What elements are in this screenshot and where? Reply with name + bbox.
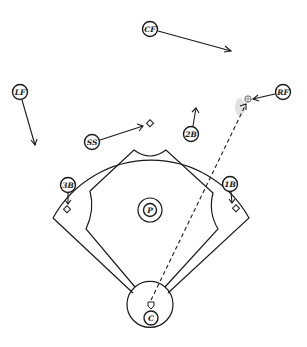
player-cf: CF bbox=[143, 22, 158, 37]
player-c: C bbox=[144, 311, 158, 325]
player-rf: RF bbox=[276, 85, 291, 100]
baseball-field-diagram: CF LF RF SS 2B 3B 1B P C bbox=[0, 0, 307, 347]
player-ss: SS bbox=[85, 135, 100, 150]
player-1b: 1B bbox=[223, 177, 238, 192]
player-2b-label: 2B bbox=[184, 130, 197, 139]
player-3b-label: 3B bbox=[62, 181, 74, 190]
player-3b: 3B bbox=[61, 178, 76, 193]
outfield-boundary bbox=[53, 160, 249, 293]
cf-arrow bbox=[158, 31, 231, 52]
second-base bbox=[146, 120, 153, 127]
ball-icon bbox=[245, 96, 251, 102]
player-c-label: C bbox=[148, 314, 154, 323]
player-p-label: P bbox=[146, 206, 153, 215]
lf-arrow bbox=[22, 100, 37, 145]
player-ss-label: SS bbox=[87, 138, 98, 147]
third-base bbox=[63, 206, 70, 213]
home-plate bbox=[148, 302, 154, 309]
player-lf-label: LF bbox=[14, 88, 26, 97]
player-cf-label: CF bbox=[144, 25, 156, 34]
left-foul-line-outer bbox=[53, 218, 133, 293]
first-base bbox=[232, 205, 239, 212]
rf-arrow bbox=[253, 94, 275, 101]
player-rf-label: RF bbox=[276, 88, 289, 97]
player-2b: 2B bbox=[184, 127, 199, 142]
player-1b-label: 1B bbox=[224, 180, 236, 189]
player-p: P bbox=[144, 204, 157, 217]
player-lf: LF bbox=[13, 85, 28, 100]
smudge-mark bbox=[235, 98, 245, 116]
ss-arrow bbox=[100, 124, 143, 140]
2b-arrow bbox=[192, 108, 199, 126]
